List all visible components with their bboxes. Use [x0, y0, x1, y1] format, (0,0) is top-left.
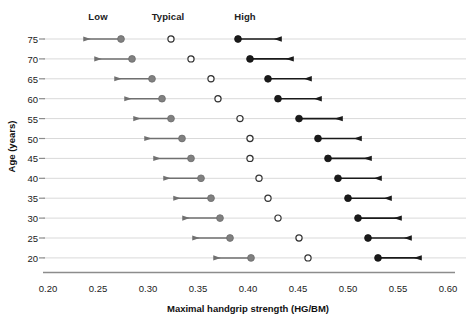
high-marker: [265, 75, 272, 82]
low-marker: [168, 115, 175, 122]
data-markers: [84, 36, 421, 262]
low-marker: [198, 175, 205, 182]
high-marker: [275, 95, 282, 102]
typical-marker: [188, 56, 194, 62]
high-marker: [325, 155, 332, 162]
typical-marker: [215, 96, 221, 102]
low-marker: [248, 255, 255, 262]
high-marker: [235, 36, 242, 43]
typical-marker: [237, 116, 243, 122]
typical-marker: [168, 36, 174, 42]
low-marker: [129, 56, 136, 63]
low-marker: [227, 235, 234, 242]
high-marker: [345, 195, 352, 202]
high-marker: [355, 215, 362, 222]
typical-marker: [208, 76, 214, 82]
low-marker: [217, 215, 224, 222]
high-marker: [315, 135, 322, 142]
handgrip-strength-chart: Low Typical High Age (years) 75 70 65 60…: [0, 0, 476, 326]
low-marker: [149, 75, 156, 82]
y-axis-ticks: [39, 39, 45, 258]
low-marker: [179, 135, 186, 142]
high-marker: [375, 255, 382, 262]
typical-marker: [296, 235, 302, 241]
typical-marker: [305, 255, 311, 261]
low-marker: [118, 36, 125, 43]
plot-area: [0, 0, 476, 326]
typical-marker: [256, 175, 262, 181]
typical-marker: [247, 155, 253, 161]
high-marker: [365, 235, 372, 242]
high-marker: [335, 175, 342, 182]
grid-lines: [43, 39, 466, 258]
typical-marker: [247, 135, 253, 141]
high-marker: [296, 115, 303, 122]
high-marker: [247, 56, 254, 63]
low-marker: [159, 95, 166, 102]
low-marker: [208, 195, 215, 202]
typical-marker: [265, 195, 271, 201]
typical-marker: [275, 215, 281, 221]
low-marker: [188, 155, 195, 162]
